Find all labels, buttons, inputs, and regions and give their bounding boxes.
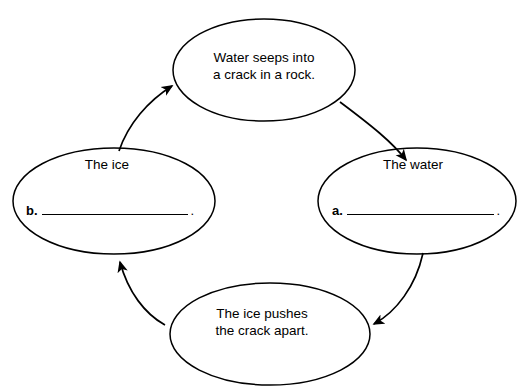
blank-answer-line-b[interactable] (42, 203, 189, 215)
diagram-canvas (0, 0, 532, 389)
blank-period-b: . (190, 203, 194, 218)
blank-period-a: . (496, 203, 500, 218)
node-ellipse-left (13, 148, 215, 254)
blank-row-a: a. . (332, 203, 500, 218)
node-ellipse-bottom (170, 283, 370, 385)
arrow-bottom-to-left (120, 262, 165, 325)
blank-answer-line-a[interactable] (347, 203, 495, 215)
blank-marker-b: b. (26, 203, 38, 218)
arrow-left-to-top (119, 86, 172, 151)
node-ellipse-right (318, 148, 516, 254)
arrow-right-to-bottom (374, 253, 423, 324)
cycle-diagram: Water seeps into a crack in a rock. The … (0, 0, 532, 389)
node-ellipse-top (173, 19, 355, 121)
blank-row-b: b. . (26, 203, 194, 218)
blank-marker-a: a. (332, 203, 343, 218)
